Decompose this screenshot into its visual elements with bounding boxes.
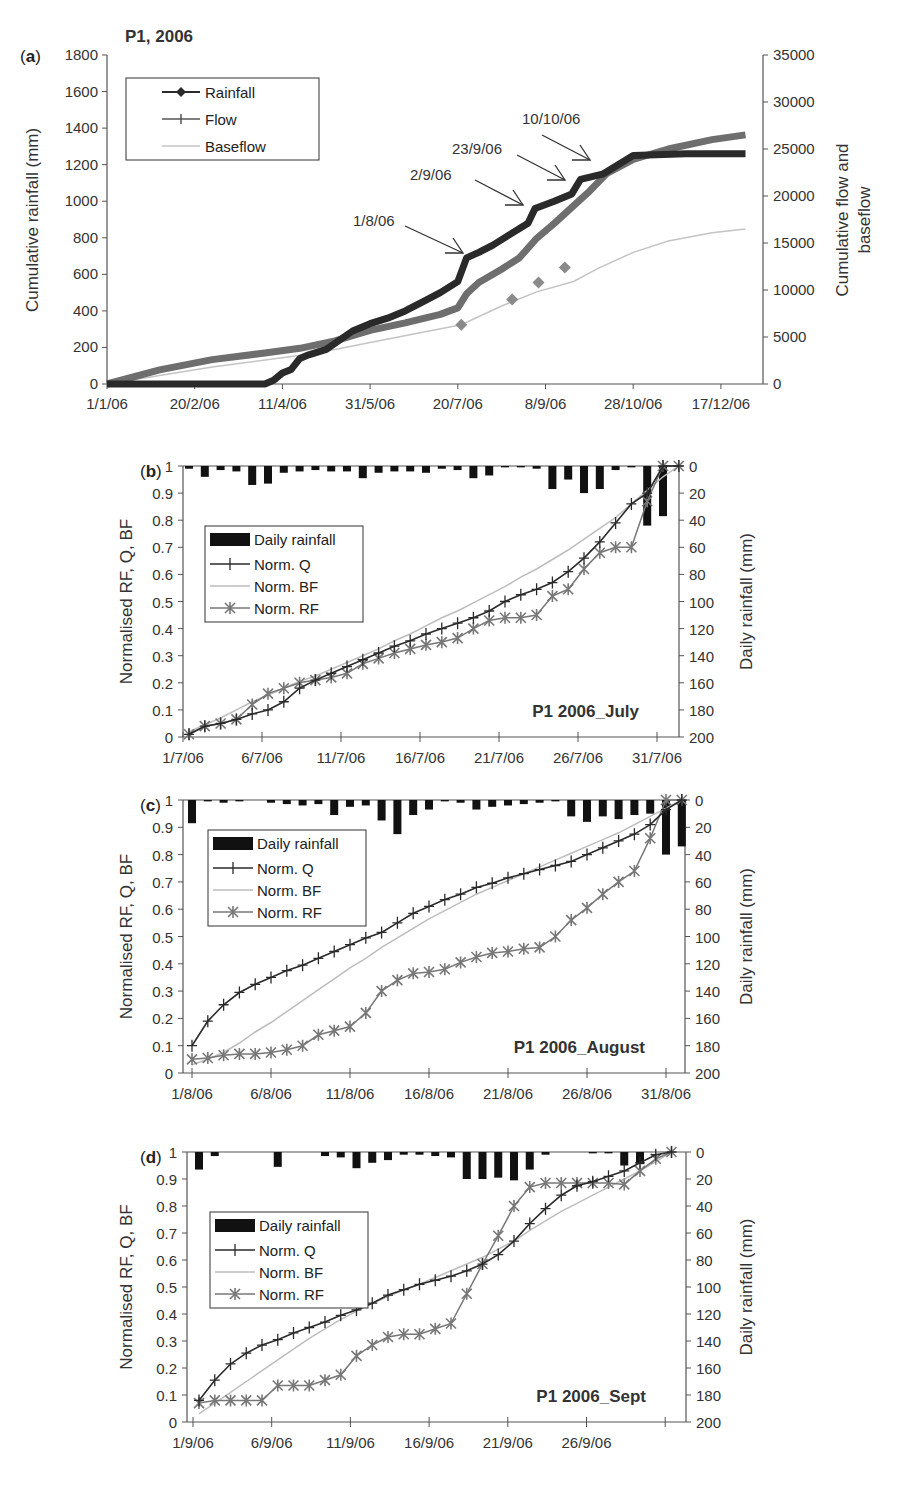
y-tick-label: 0.5 [152, 929, 173, 946]
plus-marker-icon [619, 1165, 629, 1177]
plus-marker-icon [614, 835, 624, 847]
daily-rainfall-bar [463, 1152, 471, 1179]
x-tick-label: 21/8/06 [483, 1085, 533, 1102]
x-tick-label: 17/12/06 [692, 395, 750, 412]
annotation-label: 2/9/06 [410, 166, 452, 183]
plus-marker-icon [582, 849, 592, 861]
daily-rainfall-bar [469, 466, 477, 478]
legend-label: Norm. Q [259, 1242, 316, 1259]
plus-marker-icon [453, 617, 463, 629]
chart-legend: Daily rainfallNorm. QNorm. BFNorm. RF [208, 830, 366, 926]
y2-tick-label: 35000 [773, 46, 815, 63]
plus-marker-icon [304, 1322, 314, 1334]
y2-tick-label: 160 [695, 1010, 720, 1027]
y2-tick-label: 20 [689, 485, 706, 502]
chart-title: P1 2006_July [532, 702, 639, 721]
y-tick-label: 0.7 [152, 539, 173, 556]
daily-rainfall-bar [542, 1152, 550, 1155]
daily-rainfall-bar [384, 1152, 392, 1160]
y-tick-label: 1 [169, 1144, 177, 1161]
daily-rainfall-bar [220, 800, 228, 803]
y2-tick-label: 0 [695, 792, 703, 809]
y-axis-title: Normalised RF, Q, BF [117, 519, 136, 684]
chart-panel-b: (b)00.10.20.30.40.50.60.70.80.9102040608… [117, 458, 756, 766]
daily-rainfall-bar [548, 466, 556, 489]
y2-tick-label: 120 [695, 956, 720, 973]
daily-rainfall-bar [406, 466, 414, 471]
plus-marker-icon [263, 704, 273, 716]
asterisk-marker-icon [547, 590, 557, 602]
daily-rainfall-bar [612, 466, 620, 470]
annotation-arrow [475, 180, 523, 205]
daily-rainfall-bar [232, 466, 240, 471]
plus-marker-icon [563, 566, 573, 578]
daily-rainfall-bar [311, 466, 319, 470]
daily-rainfall-bar [485, 466, 493, 475]
daily-rainfall-bar [551, 800, 559, 801]
daily-rainfall-bar [520, 800, 528, 804]
y2-tick-label: 200 [695, 1065, 720, 1082]
daily-rainfall-bar [248, 466, 256, 485]
plus-marker-icon [471, 881, 481, 893]
y-tick-label: 0 [165, 1065, 173, 1082]
y-tick-label: 200 [73, 338, 98, 355]
x-tick-label: 31/7/06 [632, 749, 682, 766]
chart-panel-c: (c)00.10.20.30.40.50.60.70.80.9102040608… [117, 792, 756, 1102]
daily-rainfall-bar [343, 466, 351, 471]
daily-rainfall-bar [353, 1152, 361, 1168]
legend-bar-swatch [215, 1219, 255, 1232]
plus-marker-icon [421, 628, 431, 640]
daily-rainfall-bar [517, 466, 525, 467]
y2-tick-label: 40 [695, 847, 712, 864]
asterisk-marker-icon [579, 563, 589, 575]
daily-rainfall-bar [378, 800, 386, 820]
chart-a-title: P1, 2006 [125, 27, 193, 46]
plus-marker-icon [336, 1309, 346, 1321]
y-tick-label: 400 [73, 302, 98, 319]
y2-tick-label: 200 [696, 1414, 721, 1431]
y2-tick-label: 15000 [773, 234, 815, 251]
annotation-label: 1/8/06 [353, 212, 395, 229]
daily-rainfall-bar [526, 1152, 534, 1170]
chart-title: P1 2006_Sept [536, 1387, 646, 1406]
y-tick-label: 0.3 [152, 648, 173, 665]
daily-rainfall-bar [204, 800, 212, 801]
y2-tick-label: 140 [696, 1333, 721, 1350]
asterisk-marker-icon [645, 832, 655, 844]
daily-rainfall-bar [362, 800, 370, 805]
daily-rainfall-bar [400, 1152, 408, 1155]
y-tick-label: 0.2 [152, 675, 173, 692]
legend-label: Norm. RF [257, 904, 322, 921]
y-axis-title: Cumulative rainfall (mm) [23, 128, 42, 312]
plus-marker-icon [279, 696, 289, 708]
y-tick-label: 0.1 [156, 1387, 177, 1404]
legend-label: Norm. Q [254, 556, 311, 573]
plus-marker-icon [358, 654, 368, 666]
plus-marker-icon [484, 605, 494, 617]
plus-marker-icon [598, 842, 608, 854]
y-tick-label: 0.1 [152, 1038, 173, 1055]
x-tick-label: 26/9/06 [561, 1434, 611, 1451]
plus-marker-icon [440, 894, 450, 906]
daily-rainfall-bar [504, 800, 512, 805]
y-axis-title: Normalised RF, Q, BF [117, 854, 136, 1019]
daily-rainfall-bar [580, 466, 588, 493]
y2-tick-label: 80 [696, 1252, 713, 1269]
daily-rainfall-bar [267, 800, 275, 803]
daily-rainfall-bar [583, 800, 591, 822]
daily-rainfall-bar [299, 800, 307, 805]
x-tick-label: 16/7/06 [395, 749, 445, 766]
plus-marker-icon [462, 1265, 472, 1277]
daily-rainfall-bar [431, 1152, 439, 1156]
daily-rainfall-bar [264, 466, 272, 484]
asterisk-marker-icon [525, 1181, 535, 1193]
daily-rainfall-bar [605, 1152, 613, 1153]
asterisk-marker-icon [430, 1323, 440, 1335]
daily-rainfall-bar [368, 1152, 376, 1163]
plus-marker-icon [468, 612, 478, 624]
y2-tick-label: 30000 [773, 93, 815, 110]
asterisk-marker-icon [614, 876, 624, 888]
chart-legend: Daily rainfallNorm. QNorm. BFNorm. RF [205, 526, 363, 622]
daily-rainfall-bar [393, 800, 401, 834]
daily-rainfall-bar [375, 466, 383, 473]
